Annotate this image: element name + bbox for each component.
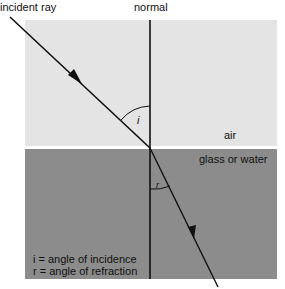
medium-label: glass or water: [199, 153, 267, 165]
angle-r-label: r: [156, 180, 159, 190]
air-label: air: [224, 129, 236, 141]
refraction-diagram: [0, 0, 285, 289]
normal-label: normal: [134, 1, 168, 13]
incident-ray-label: incident ray: [0, 1, 56, 13]
air-region: [25, 20, 277, 146]
legend-r: r = angle of refraction: [33, 265, 137, 277]
angle-i-label: i: [137, 114, 139, 126]
legend-i: i = angle of incidence: [33, 253, 137, 265]
